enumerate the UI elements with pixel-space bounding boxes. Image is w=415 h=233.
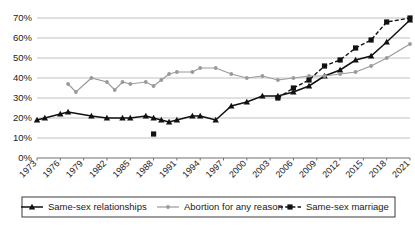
data-point-circle bbox=[105, 80, 109, 84]
data-point-square bbox=[306, 77, 311, 82]
data-point-circle bbox=[261, 74, 265, 78]
xtick-label: 2003 bbox=[250, 158, 271, 179]
xtick-label: 1985 bbox=[110, 158, 131, 179]
legend-label: Abortion for any reason bbox=[184, 201, 283, 212]
gridlines-group bbox=[37, 18, 410, 158]
xtick-label: 2018 bbox=[367, 158, 388, 179]
xtick-label: 2009 bbox=[297, 158, 318, 179]
data-point-circle bbox=[276, 78, 280, 82]
xtick-label: 1991 bbox=[157, 158, 178, 179]
ytick-label: 20% bbox=[13, 112, 33, 123]
data-point-circle bbox=[323, 74, 327, 78]
xtick-label: 1997 bbox=[204, 158, 225, 179]
data-point-square bbox=[275, 95, 280, 100]
data-point-circle bbox=[167, 72, 171, 76]
chart-container: 0%10%20%30%40%50%60%70% 1973197619791982… bbox=[0, 0, 415, 233]
data-point-circle bbox=[292, 76, 296, 80]
data-point-circle bbox=[354, 70, 358, 74]
legend-group: Same-sex relationshipsAbortion for any r… bbox=[21, 197, 395, 217]
data-point-square bbox=[384, 19, 389, 24]
data-point-circle bbox=[307, 74, 311, 78]
data-point-circle bbox=[144, 80, 148, 84]
data-point-circle bbox=[369, 64, 373, 68]
legend-label: Same-sex relationships bbox=[48, 201, 147, 212]
data-point-circle bbox=[113, 88, 117, 92]
xtick-label: 1976 bbox=[40, 158, 61, 179]
data-point-square bbox=[338, 57, 343, 62]
legend-label: Same-sex marriage bbox=[306, 201, 389, 212]
xtick-label: 2021 bbox=[390, 158, 411, 179]
xtick-label: 2012 bbox=[320, 158, 341, 179]
ytick-label: 70% bbox=[13, 12, 33, 23]
xtick-labels-group: 1973197619791982198519881991199419972000… bbox=[17, 158, 411, 180]
data-point-circle bbox=[66, 82, 70, 86]
ytick-labels-group: 0%10%20%30%40%50%60%70% bbox=[13, 12, 33, 163]
data-point-circle bbox=[385, 56, 389, 60]
xtick-label: 2000 bbox=[227, 158, 248, 179]
data-point-circle bbox=[175, 70, 179, 74]
data-point-circle bbox=[191, 70, 195, 74]
data-point-circle bbox=[159, 78, 163, 82]
xtick-label: 1994 bbox=[180, 158, 201, 179]
data-point-square bbox=[291, 85, 296, 90]
series-1 bbox=[66, 42, 412, 94]
ytick-label: 40% bbox=[13, 72, 33, 83]
line-chart: 0%10%20%30%40%50%60%70% 1973197619791982… bbox=[0, 0, 415, 233]
xtick-label: 1988 bbox=[134, 158, 155, 179]
data-point-square bbox=[287, 204, 292, 209]
data-point-square bbox=[369, 37, 374, 42]
ytick-label: 60% bbox=[13, 32, 33, 43]
data-point-circle bbox=[128, 82, 132, 86]
data-point-square bbox=[151, 131, 156, 136]
data-point-square bbox=[353, 45, 358, 50]
xtick-label: 1982 bbox=[87, 158, 108, 179]
data-point-square bbox=[322, 63, 327, 68]
xtick-label: 2015 bbox=[344, 158, 365, 179]
ytick-label: 10% bbox=[13, 132, 33, 143]
data-point-circle bbox=[152, 84, 156, 88]
xtick-label: 2006 bbox=[274, 158, 295, 179]
ytick-label: 30% bbox=[13, 92, 33, 103]
data-point-circle bbox=[214, 66, 218, 70]
data-point-circle bbox=[338, 72, 342, 76]
data-point-circle bbox=[245, 76, 249, 80]
data-point-circle bbox=[408, 42, 412, 46]
ytick-label: 50% bbox=[13, 52, 33, 63]
data-point-circle bbox=[166, 205, 170, 209]
series-line bbox=[68, 44, 410, 92]
series-group bbox=[34, 15, 413, 136]
data-point-square bbox=[407, 15, 412, 20]
data-point-circle bbox=[121, 80, 125, 84]
data-point-circle bbox=[74, 90, 78, 94]
data-point-circle bbox=[198, 66, 202, 70]
xtick-label: 1979 bbox=[64, 158, 85, 179]
data-point-circle bbox=[90, 76, 94, 80]
data-point-circle bbox=[229, 72, 233, 76]
